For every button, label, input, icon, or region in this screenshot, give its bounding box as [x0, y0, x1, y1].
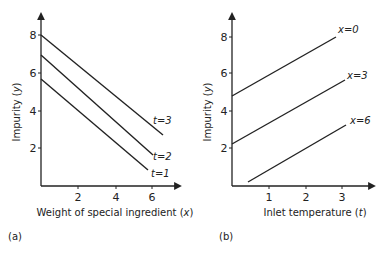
- y-tick-label: 8: [221, 31, 228, 44]
- y-tick-label: 8: [30, 29, 37, 42]
- y-tick-label: 4: [30, 105, 37, 118]
- label-x0: x=0: [337, 24, 359, 35]
- label-t1: t=1: [151, 168, 170, 179]
- panel-tag-b: (b): [219, 231, 233, 242]
- line-t1: [41, 79, 148, 170]
- y-tick-label: 2: [30, 142, 37, 155]
- y-tick-label: 6: [30, 67, 37, 80]
- line-x3: [232, 80, 345, 144]
- panel-b: 8 6 4 2 1 2 3 Impurity (y) Inlet tempera…: [202, 16, 372, 242]
- line-x6: [248, 125, 346, 182]
- x-tick-label: 3: [339, 191, 346, 204]
- line-x0: [232, 37, 336, 96]
- x-axis-label-b: Inlet temperature (t): [263, 207, 366, 218]
- x-tick-label: 2: [303, 191, 310, 204]
- x-tick-label: 1: [266, 191, 273, 204]
- line-t2: [41, 55, 153, 155]
- y-axis-label-b: Impurity (y): [202, 82, 213, 141]
- y-tick-label: 2: [221, 142, 228, 155]
- y-tick-label: 6: [221, 67, 228, 80]
- x-tick-label: 4: [113, 191, 120, 204]
- x-axis-label-a: Weight of special ingredient (x): [37, 207, 194, 218]
- x-tick-label: 6: [149, 191, 156, 204]
- line-t3: [41, 35, 163, 135]
- y-axis-label-a: Impurity (y): [11, 82, 22, 141]
- x-tick-label: 2: [75, 191, 82, 204]
- label-x6: x=6: [349, 115, 371, 126]
- label-t2: t=2: [153, 151, 172, 162]
- panel-tag-a: (a): [8, 231, 22, 242]
- label-t3: t=3: [153, 115, 172, 126]
- label-x3: x=3: [346, 70, 368, 81]
- y-tick-label: 4: [221, 105, 228, 118]
- panel-a: 8 6 4 2 2 4 6 Impurity (y) Weight of spe…: [8, 16, 194, 242]
- figure: 8 6 4 2 2 4 6 Impurity (y) Weight of spe…: [0, 0, 385, 256]
